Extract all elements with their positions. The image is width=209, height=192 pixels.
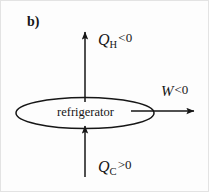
label-qc-subscript: C [110, 166, 117, 177]
label-qh-relation: <0 [118, 30, 132, 45]
refrigerator-body-label: refrigerator [1, 106, 170, 119]
label-qh-subscript: H [110, 39, 118, 50]
label-qc-relation: >0 [118, 157, 132, 172]
label-qc-symbol: Q [98, 158, 110, 175]
panel-label: b) [27, 15, 39, 29]
label-w-relation: <0 [175, 82, 189, 97]
label-w: W<0 [161, 83, 188, 99]
thermodynamics-refrigerator-diagram: b) refrigerator QH<0 QC>0 W<0 [0, 0, 209, 192]
label-w-symbol: W [161, 83, 174, 99]
label-qc: QC>0 [98, 158, 132, 177]
label-qh: QH<0 [98, 31, 132, 50]
label-qh-symbol: Q [98, 31, 110, 48]
